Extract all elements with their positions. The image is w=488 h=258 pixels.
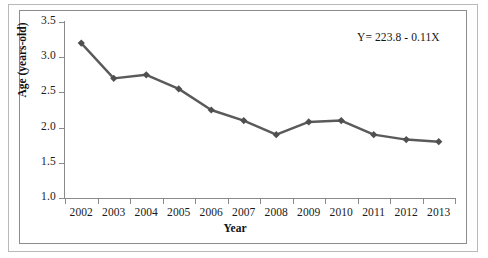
- x-tick-mark: [325, 199, 326, 204]
- x-tick-mark: [358, 199, 359, 204]
- y-tick-mark: [59, 163, 65, 164]
- x-tick-mark: [390, 199, 391, 204]
- x-tick-mark: [163, 199, 164, 204]
- x-tick-label: 2013: [419, 206, 459, 218]
- regression-equation-annotation: Y= 223.8 - 0.11X: [357, 31, 440, 43]
- y-tick-mark: [59, 57, 65, 58]
- x-tick-mark: [98, 199, 99, 204]
- y-tick-mark: [59, 92, 65, 93]
- x-tick-mark: [228, 199, 229, 204]
- x-tick-mark: [260, 199, 261, 204]
- y-tick-mark: [59, 22, 65, 23]
- x-tick-mark: [455, 199, 456, 204]
- y-tick-mark: [59, 128, 65, 129]
- x-tick-mark: [195, 199, 196, 204]
- y-tick-label: 2.0: [16, 120, 56, 132]
- chart-figure: 1.01.52.02.53.03.5 200220032004200520062…: [0, 0, 488, 258]
- x-tick-mark: [65, 199, 66, 204]
- x-tick-mark: [293, 199, 294, 204]
- x-tick-mark: [130, 199, 131, 204]
- y-tick-label: 1.0: [16, 190, 56, 202]
- y-tick-label: 1.5: [16, 155, 56, 167]
- x-axis-title: Year: [0, 222, 488, 234]
- x-tick-mark: [423, 199, 424, 204]
- y-axis-title: Age (years-old): [16, 0, 28, 120]
- y-axis-line: [64, 21, 65, 199]
